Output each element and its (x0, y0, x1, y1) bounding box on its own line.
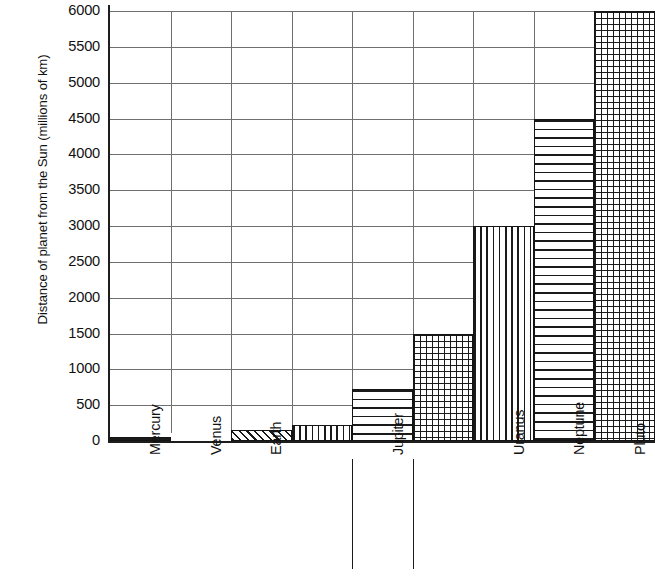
x-tick-label: Neptune (571, 335, 587, 455)
category-group-separator (352, 459, 353, 569)
y-tick-label: 4500 (34, 111, 100, 125)
x-tick-label: Earth (268, 335, 284, 455)
bar (292, 425, 353, 441)
y-tick-label: 2500 (34, 254, 100, 268)
y-tick-label: 2000 (34, 290, 100, 304)
y-tick-label: 5500 (34, 39, 100, 53)
y-tick-label: 1500 (34, 326, 100, 340)
y-tick-label: 4000 (34, 146, 100, 160)
x-tick-label: Pluto (632, 335, 648, 455)
y-tick-label: 1000 (34, 361, 100, 375)
category-group-separator (413, 459, 414, 569)
y-tick-label: 3500 (34, 182, 100, 196)
y-tick-label: 5000 (34, 75, 100, 89)
x-tick-label: Venus (208, 335, 224, 455)
x-tick-label: Mercury (147, 335, 163, 455)
bar-chart: Distance of planet from the Sun (million… (0, 0, 655, 581)
y-tick-label: 3000 (34, 218, 100, 232)
y-tick-label: 0 (34, 433, 100, 447)
y-tick-label: 500 (34, 397, 100, 411)
y-tick-label: 6000 (34, 3, 100, 17)
x-axis-category-labels: MercuryVenusEarthJupiterUranusNeptunePlu… (110, 441, 655, 581)
bar (413, 334, 474, 442)
x-tick-label: Uranus (511, 335, 527, 455)
y-axis-tick-labels: 0500100015002000250030003500400045005000… (34, 0, 100, 460)
x-tick-label: Jupiter (390, 335, 406, 455)
